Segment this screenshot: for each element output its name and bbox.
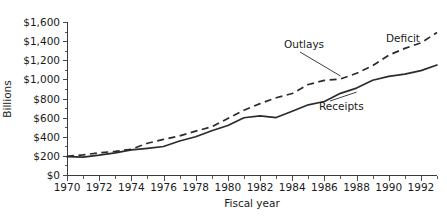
annotation-label-deficit: Deficit	[386, 32, 420, 44]
y-tick-label: $800	[33, 93, 60, 105]
x-tick-label: 1992	[408, 181, 435, 193]
x-tick-label: 1970	[54, 181, 81, 193]
x-tick-label: 1986	[311, 181, 338, 193]
x-tick-label: 1982	[247, 181, 274, 193]
y-axis-tick-labels: $0$200$400$600$800$1,000$1,200$1,400$1,6…	[23, 16, 60, 181]
annotation-label-outlays: Outlays	[284, 38, 324, 50]
x-tick-label: 1980	[215, 181, 242, 193]
x-tick-label: 1972	[86, 181, 113, 193]
x-tick-label: 1984	[279, 181, 306, 193]
y-axis-ticks	[63, 23, 67, 176]
x-axis-tick-labels: 1970197219741976197819801982198419861988…	[54, 181, 435, 193]
y-tick-label: $200	[33, 150, 60, 162]
y-tick-label: $1,600	[23, 16, 60, 28]
series-line-outlays	[67, 33, 437, 157]
budget-line-chart: $0$200$400$600$800$1,000$1,200$1,400$1,6…	[0, 0, 447, 222]
y-tick-label: $1,000	[23, 73, 60, 85]
y-axis-title: Billions	[1, 80, 13, 117]
annotation-leader-outlays	[300, 52, 341, 76]
x-axis-ticks	[68, 176, 438, 181]
y-tick-label: $0	[47, 169, 60, 181]
x-axis-title: Fiscal year	[224, 197, 280, 209]
chart-container: $0$200$400$600$800$1,000$1,200$1,400$1,6…	[0, 0, 447, 222]
y-tick-label: $600	[33, 112, 60, 124]
x-tick-label: 1988	[343, 181, 370, 193]
x-tick-label: 1978	[182, 181, 209, 193]
y-tick-label: $1,400	[23, 35, 60, 47]
x-tick-label: 1976	[150, 181, 177, 193]
x-tick-label: 1974	[118, 181, 145, 193]
series-line-receipts	[67, 65, 437, 157]
y-tick-label: $1,200	[23, 54, 60, 66]
x-tick-label: 1990	[375, 181, 402, 193]
y-tick-label: $400	[33, 131, 60, 143]
annotation-label-receipts: Receipts	[319, 100, 364, 112]
